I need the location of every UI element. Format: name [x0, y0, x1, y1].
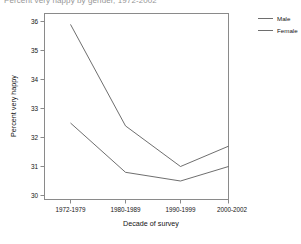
series-line-male [71, 24, 229, 166]
plot-area-border [45, 14, 229, 200]
chart-legend: Male Female [258, 15, 298, 34]
y-tick-label: 32 [31, 134, 39, 141]
x-axis-tick-labels: 1972-1979 1980-1989 1990-1999 2000-2002 [55, 206, 247, 213]
y-axis-ticks [41, 22, 45, 196]
y-axis-title: Percent very happy [9, 75, 18, 137]
x-axis-ticks [71, 200, 229, 204]
y-tick-label: 30 [31, 192, 39, 199]
y-tick-label: 35 [31, 47, 39, 54]
x-tick-label: 1980-1989 [110, 206, 141, 213]
x-axis-title: Decade of survey [123, 219, 179, 228]
series-line-female [71, 123, 229, 181]
y-axis-tick-labels: 36 35 34 33 32 31 30 [31, 18, 39, 199]
y-tick-label: 34 [31, 76, 39, 83]
x-tick-label: 2000-2002 [217, 206, 248, 213]
y-tick-label: 31 [31, 163, 39, 170]
x-tick-label: 1972-1979 [55, 206, 86, 213]
legend-label-female[interactable]: Female [277, 27, 298, 34]
chart-canvas: 36 35 34 33 32 31 30 Percent very happy … [0, 0, 301, 244]
y-tick-label: 33 [31, 105, 39, 112]
y-tick-label: 36 [31, 18, 39, 25]
legend-label-male[interactable]: Male [277, 15, 291, 22]
chart-container: Percent very happy by gender, 1972-2002 … [0, 0, 301, 244]
x-tick-label: 1990-1999 [165, 206, 196, 213]
